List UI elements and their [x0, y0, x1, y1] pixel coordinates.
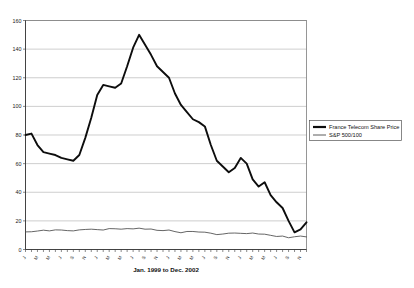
x-tick-label: J — [237, 256, 242, 260]
x-tick-label: N — [224, 255, 230, 260]
x-tick-label: N — [296, 255, 302, 260]
y-tick-label: 120 — [13, 75, 22, 81]
y-tick-label: 20 — [16, 218, 22, 224]
x-axis-ticks: JMMJSNJMMJSNJMMJSNJMMJSN — [21, 250, 306, 261]
chart-legend: France Telecom Share Price S&P 500/100 — [310, 121, 402, 141]
y-tick-label: 160 — [13, 18, 22, 24]
y-tick-label: 140 — [13, 46, 22, 52]
series-line-france-telecom — [26, 35, 307, 233]
legend-label-sp500: S&P 500/100 — [329, 132, 362, 138]
x-tick-label: J — [273, 256, 278, 260]
x-axis-title: Jan. 1999 to Dec. 2002 — [133, 266, 199, 273]
x-tick-label: J — [201, 256, 206, 260]
x-tick-label: J — [57, 256, 62, 260]
y-tick-label: 40 — [16, 189, 22, 195]
x-tick-label: J — [21, 256, 26, 260]
y-tick-label: 0 — [19, 247, 22, 253]
series-line-sp500 — [26, 228, 307, 238]
y-tick-label: 80 — [16, 132, 22, 138]
x-tick-label: M — [33, 255, 39, 261]
x-tick-label: M — [105, 255, 111, 261]
legend-label-france-telecom: France Telecom Share Price — [329, 124, 399, 130]
x-tick-label: J — [129, 256, 134, 260]
line-chart: 020406080100120140160 JMMJSNJMMJSNJMMJSN… — [0, 0, 414, 288]
x-tick-label: S — [284, 255, 290, 260]
x-tick-label: N — [81, 255, 87, 260]
x-tick-label: M — [260, 255, 266, 261]
x-tick-label: M — [117, 255, 123, 261]
x-tick-label: J — [165, 256, 170, 260]
x-tick-label: M — [177, 255, 183, 261]
y-tick-label: 60 — [16, 161, 22, 167]
y-axis-ticks: 020406080100120140160 — [13, 18, 26, 253]
x-tick-label: M — [188, 255, 194, 261]
x-tick-label: S — [141, 255, 147, 260]
x-tick-label: S — [213, 255, 219, 260]
chart-container: 020406080100120140160 JMMJSNJMMJSNJMMJSN… — [0, 0, 414, 288]
x-tick-label: M — [248, 255, 254, 261]
x-tick-label: S — [69, 255, 75, 260]
x-tick-label: N — [153, 255, 159, 260]
x-tick-label: M — [45, 255, 51, 261]
x-tick-label: J — [93, 256, 98, 260]
gridlines — [26, 21, 307, 221]
y-tick-label: 100 — [13, 103, 22, 109]
